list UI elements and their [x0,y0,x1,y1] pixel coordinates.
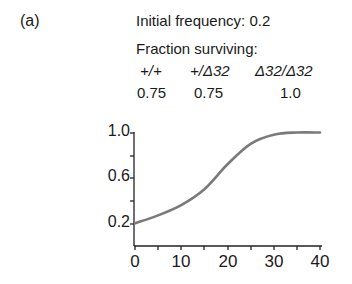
plot-area [0,0,352,284]
frequency-curve [135,132,320,223]
axes [130,132,322,250]
